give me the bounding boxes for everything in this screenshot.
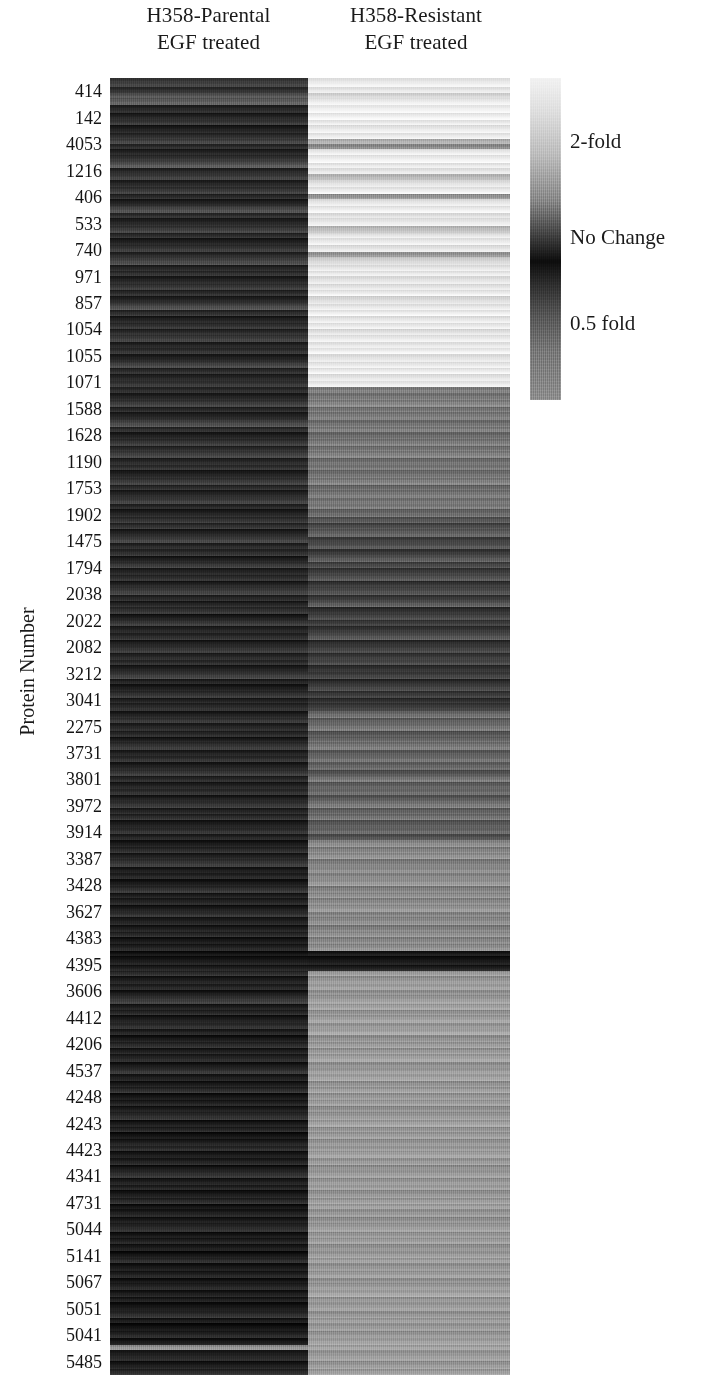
row-label: 1902 xyxy=(24,506,102,524)
row-label: 2022 xyxy=(24,612,102,630)
row-label-column: 4141424053121640653374097185710541055107… xyxy=(24,78,102,1375)
row-label: 5041 xyxy=(24,1326,102,1344)
row-label: 857 xyxy=(24,294,102,312)
row-label: 3041 xyxy=(24,691,102,709)
column-header-resistant: H358-Resistant EGF treated xyxy=(311,2,521,56)
colorbar-label-high: 2-fold xyxy=(570,131,621,152)
row-label: 3606 xyxy=(24,982,102,1000)
row-label: 2275 xyxy=(24,718,102,736)
row-label: 4206 xyxy=(24,1035,102,1053)
row-label: 4053 xyxy=(24,135,102,153)
row-label: 1794 xyxy=(24,559,102,577)
column-header-parental: H358-Parental EGF treated xyxy=(106,2,311,56)
row-label: 4248 xyxy=(24,1088,102,1106)
row-label: 3801 xyxy=(24,770,102,788)
column-header-parental-line2: EGF treated xyxy=(106,29,311,56)
row-label: 3428 xyxy=(24,876,102,894)
row-label: 4341 xyxy=(24,1167,102,1185)
row-label: 1055 xyxy=(24,347,102,365)
heatmap-body xyxy=(110,78,510,1375)
colorbar-label-mid: No Change xyxy=(570,227,665,248)
row-label: 1588 xyxy=(24,400,102,418)
row-label: 1753 xyxy=(24,479,102,497)
row-label: 533 xyxy=(24,215,102,233)
row-label: 4537 xyxy=(24,1062,102,1080)
row-label: 3212 xyxy=(24,665,102,683)
row-label: 1475 xyxy=(24,532,102,550)
column-header-parental-line1: H358-Parental xyxy=(106,2,311,29)
heatmap-column-resistant xyxy=(308,78,510,1375)
row-label: 4383 xyxy=(24,929,102,947)
row-label: 406 xyxy=(24,188,102,206)
row-label: 3387 xyxy=(24,850,102,868)
row-label: 1190 xyxy=(24,453,102,471)
row-label: 3731 xyxy=(24,744,102,762)
row-label: 5044 xyxy=(24,1220,102,1238)
row-label: 4395 xyxy=(24,956,102,974)
row-label: 740 xyxy=(24,241,102,259)
row-label: 5141 xyxy=(24,1247,102,1265)
row-label: 2082 xyxy=(24,638,102,656)
row-label: 3972 xyxy=(24,797,102,815)
row-label: 4423 xyxy=(24,1141,102,1159)
row-label: 2038 xyxy=(24,585,102,603)
colorbar-gradient xyxy=(530,78,561,400)
row-label: 1071 xyxy=(24,373,102,391)
row-label: 4243 xyxy=(24,1115,102,1133)
row-label: 5067 xyxy=(24,1273,102,1291)
colorbar-legend xyxy=(530,78,561,400)
row-label: 414 xyxy=(24,82,102,100)
row-label: 142 xyxy=(24,109,102,127)
row-label: 3914 xyxy=(24,823,102,841)
row-label: 1054 xyxy=(24,320,102,338)
column-header-resistant-line2: EGF treated xyxy=(311,29,521,56)
row-label: 5051 xyxy=(24,1300,102,1318)
row-label: 3627 xyxy=(24,903,102,921)
column-header-resistant-line1: H358-Resistant xyxy=(311,2,521,29)
row-label: 4412 xyxy=(24,1009,102,1027)
heatmap-band xyxy=(110,1369,308,1375)
row-label: 5485 xyxy=(24,1353,102,1371)
row-label: 971 xyxy=(24,268,102,286)
heatmap-column-parental xyxy=(110,78,308,1375)
heatmap-band xyxy=(308,1350,510,1362)
row-label: 1628 xyxy=(24,426,102,444)
row-label: 1216 xyxy=(24,162,102,180)
heatmap-figure: H358-Parental EGF treated H358-Resistant… xyxy=(0,0,712,1387)
colorbar-label-low: 0.5 fold xyxy=(570,313,635,334)
row-label: 4731 xyxy=(24,1194,102,1212)
heatmap-band xyxy=(308,1369,510,1375)
heatmap-band xyxy=(110,1350,308,1362)
